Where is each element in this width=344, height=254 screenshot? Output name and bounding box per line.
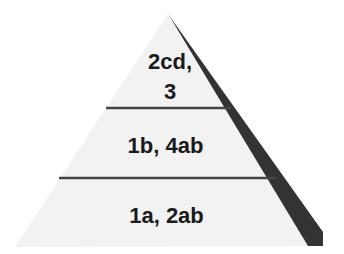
tier-top-label-line2: 3 — [140, 77, 200, 107]
pyramid-diagram: 2cd, 3 1b, 4ab 1a, 2ab — [0, 0, 344, 254]
tier-middle-label: 1b, 4ab — [100, 131, 231, 161]
tier-top-label-line1: 2cd, — [140, 47, 200, 77]
tier-bottom-label: 1a, 2ab — [100, 201, 233, 231]
